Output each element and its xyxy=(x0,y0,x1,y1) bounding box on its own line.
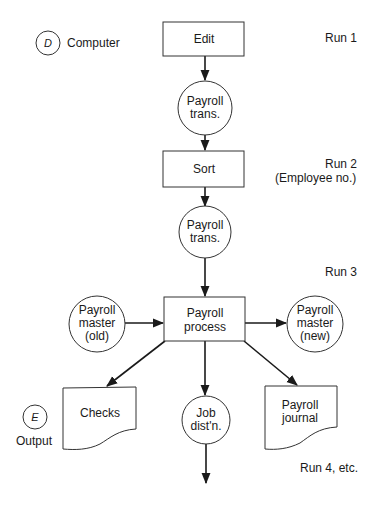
run-1-label: Run 1 xyxy=(325,31,357,45)
legend-output-label: Output xyxy=(16,434,53,448)
node-payroll-master-new: Payroll master (new) xyxy=(287,296,343,352)
node-payroll-master-old: Payroll master (old) xyxy=(69,296,125,352)
node-sort: Sort xyxy=(163,151,244,187)
node-journal-line1: Payroll xyxy=(282,398,319,412)
node-masterold-line2: master xyxy=(79,316,116,330)
node-trans2-line2: trans. xyxy=(190,231,220,245)
run-3-label: Run 3 xyxy=(325,265,357,279)
node-job-line1: Job xyxy=(196,406,216,420)
node-masternew-line2: master xyxy=(297,316,334,330)
node-payroll-trans-2: Payroll trans. xyxy=(179,206,231,258)
node-masterold-line3: (old) xyxy=(85,329,109,343)
node-process-line1: Payroll xyxy=(187,306,224,320)
node-sort-label: Sort xyxy=(193,162,216,176)
legend-computer: D Computer xyxy=(36,31,120,55)
run-2-label: Run 2 xyxy=(325,157,357,171)
legend-output: E Output xyxy=(16,405,53,448)
node-payroll-trans-1: Payroll trans. xyxy=(178,81,232,135)
payroll-flowchart: D Computer E Output Run 1 Run 2 (Employe… xyxy=(0,0,376,506)
run-4-label: Run 4, etc. xyxy=(300,461,358,475)
node-checks: Checks xyxy=(63,387,136,449)
node-masternew-line1: Payroll xyxy=(297,303,334,317)
edge-process-checks xyxy=(107,341,165,386)
legend-computer-letter: D xyxy=(44,37,52,49)
edge-process-journal xyxy=(244,341,297,385)
node-job-line2: dist'n. xyxy=(191,419,222,433)
legend-output-letter: E xyxy=(31,411,39,423)
node-job-distn: Job dist'n. xyxy=(182,396,230,444)
node-trans1-line1: Payroll xyxy=(187,94,224,108)
run-2-sublabel: (Employee no.) xyxy=(275,171,356,185)
node-checks-label: Checks xyxy=(80,406,120,420)
node-process-line2: process xyxy=(184,320,226,334)
legend-computer-label: Computer xyxy=(67,36,120,50)
node-journal-line2: journal xyxy=(281,411,318,425)
node-trans2-line1: Payroll xyxy=(187,218,224,232)
node-payroll-journal: Payroll journal xyxy=(265,386,337,449)
node-masterold-line1: Payroll xyxy=(79,303,116,317)
node-edit-label: Edit xyxy=(194,32,215,46)
node-masternew-line3: (new) xyxy=(300,329,330,343)
node-trans1-line2: trans. xyxy=(190,107,220,121)
node-edit: Edit xyxy=(163,22,244,56)
node-payroll-process: Payroll process xyxy=(164,297,245,341)
